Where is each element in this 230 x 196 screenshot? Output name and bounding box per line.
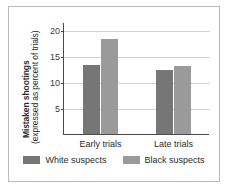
y-tick-label: 20 <box>50 26 60 36</box>
y-axis-title-line2: (expressed as percent of trials) <box>30 31 40 145</box>
plot-axes: 5101520 Early trialsLate trials <box>63 23 209 135</box>
legend-item: Black suspects <box>123 155 205 165</box>
y-tick-mark <box>61 31 64 32</box>
plot-area: 5101520 Early trialsLate trials <box>63 23 209 135</box>
legend-swatch <box>23 156 40 164</box>
chart-figure: Mistaken shootings (expressed as percent… <box>8 6 220 182</box>
y-tick-mark <box>61 83 64 84</box>
bar <box>83 65 100 134</box>
bar <box>174 66 191 134</box>
legend-item: White suspects <box>23 155 106 165</box>
legend-swatch <box>123 156 140 164</box>
legend-label: White suspects <box>45 155 106 165</box>
x-axis-label: Early trials <box>79 139 121 149</box>
legend-label: Black suspects <box>145 155 205 165</box>
y-tick-label: 15 <box>50 52 60 62</box>
y-axis-title: Mistaken shootings (expressed as percent… <box>9 7 43 147</box>
x-axis-label: Late trials <box>154 139 193 149</box>
y-tick-mark <box>61 109 64 110</box>
y-tick-label: 10 <box>50 78 60 88</box>
bar <box>101 39 118 134</box>
gridline: 15 <box>64 57 210 58</box>
gridline: 20 <box>64 31 210 32</box>
y-tick-label: 5 <box>55 104 60 114</box>
bar <box>156 70 173 134</box>
chart-legend: White suspectsBlack suspects <box>9 155 219 165</box>
y-tick-mark <box>61 57 64 58</box>
